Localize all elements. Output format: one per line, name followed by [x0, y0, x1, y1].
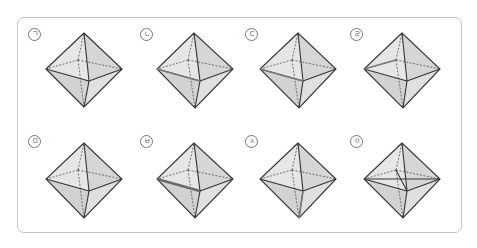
- octahedron-item-5: ㅁ: [28, 135, 138, 235]
- octahedron-item-1: ㄱ: [28, 28, 138, 128]
- octahedron-icon: [245, 135, 355, 235]
- octahedron-icon: [140, 135, 250, 235]
- octahedron-item-2: ㄴ: [140, 28, 250, 128]
- octahedron-item-3: ㄷ: [245, 28, 355, 128]
- octahedron-item-7: ㅅ: [245, 135, 355, 235]
- octahedron-icon: [350, 28, 460, 128]
- octahedron-item-8: ㅇ: [350, 135, 460, 235]
- octahedron-icon: [28, 135, 138, 235]
- octahedron-icon: [140, 28, 250, 128]
- octahedron-icon: [350, 135, 460, 235]
- octahedron-item-6: ㅂ: [140, 135, 250, 235]
- octahedron-icon: [28, 28, 138, 128]
- octahedron-item-4: ㄹ: [350, 28, 460, 128]
- octahedron-icon: [245, 28, 355, 128]
